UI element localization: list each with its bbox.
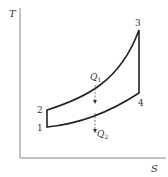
- y-axis-label: T: [9, 8, 17, 19]
- ts-diagram: T S 1 2 3 4 Q1 Q2: [0, 0, 168, 177]
- q-out-label: Q2: [97, 129, 108, 140]
- point-label-2: 2: [37, 105, 43, 115]
- q-in-arrowhead-icon: [93, 100, 97, 104]
- q-in-label: Q1: [90, 72, 101, 83]
- point-label-1: 1: [37, 123, 43, 133]
- x-axis-label: S: [151, 163, 158, 174]
- point-label-3: 3: [135, 18, 141, 28]
- point-label-4: 4: [138, 98, 144, 108]
